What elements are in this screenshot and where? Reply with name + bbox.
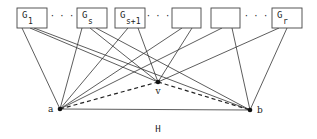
graph-diagram: G1GsGs+1Gr · · ·· · ·· · · avb H	[0, 0, 317, 139]
vertex-a	[58, 107, 63, 112]
edge	[60, 109, 250, 110]
box-gs: Gs	[77, 8, 107, 28]
edge	[232, 28, 250, 110]
edge	[158, 28, 192, 82]
vertex-b	[248, 108, 253, 113]
vertex-v	[156, 80, 161, 85]
edges	[22, 28, 287, 110]
edge	[60, 28, 128, 109]
svg-text:G: G	[82, 10, 87, 20]
svg-text:s+1: s+1	[126, 17, 141, 26]
svg-text:G: G	[277, 10, 282, 20]
ellipsis: · · ·	[244, 12, 268, 21]
box-blank2	[211, 8, 240, 28]
svg-text:G: G	[22, 10, 27, 20]
box-g1: G1	[17, 8, 47, 28]
edge	[30, 28, 158, 82]
box-gs1: Gs+1	[115, 8, 145, 28]
edge	[22, 28, 60, 109]
edge	[158, 28, 279, 82]
svg-text:1: 1	[28, 17, 33, 26]
edge	[96, 28, 250, 110]
vertex-label-a: a	[48, 104, 54, 114]
caption-h: H	[155, 124, 160, 134]
dashed-edge	[158, 82, 250, 110]
svg-text:r: r	[283, 17, 288, 26]
vertex-label-v: v	[154, 86, 161, 96]
box-blank1	[172, 8, 201, 28]
edge	[60, 28, 222, 109]
edge	[250, 28, 287, 110]
ellipsis: · · ·	[146, 12, 170, 21]
dashed-edge	[60, 82, 158, 109]
vertex-label-b: b	[257, 105, 263, 115]
ellipsis: · · ·	[50, 12, 74, 21]
svg-text:s: s	[88, 17, 93, 26]
box-gr: Gr	[272, 8, 302, 28]
svg-text:G: G	[120, 10, 125, 20]
